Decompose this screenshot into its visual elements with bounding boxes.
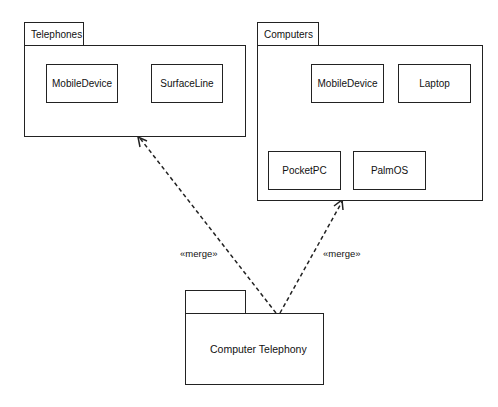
class-pocketpc[interactable]: PocketPC — [268, 151, 341, 190]
class-mobiledevice-telephones[interactable]: MobileDevice — [46, 64, 118, 103]
merge-connector-telephones — [139, 137, 276, 313]
class-surfaceline[interactable]: SurfaceLine — [151, 64, 223, 103]
package-tab-computer-telephony — [185, 290, 246, 314]
class-mobiledevice-computers[interactable]: MobileDevice — [311, 64, 384, 103]
merge-label-left: «merge» — [180, 248, 218, 259]
merge-label-right: «merge» — [323, 248, 361, 259]
package-name-computer-telephony: Computer Telephony — [210, 343, 307, 355]
class-laptop[interactable]: Laptop — [398, 64, 471, 103]
class-palmos[interactable]: PalmOS — [353, 151, 426, 190]
package-tab-computers: Computers — [257, 22, 319, 46]
package-tab-telephones: Telephones — [24, 22, 84, 46]
